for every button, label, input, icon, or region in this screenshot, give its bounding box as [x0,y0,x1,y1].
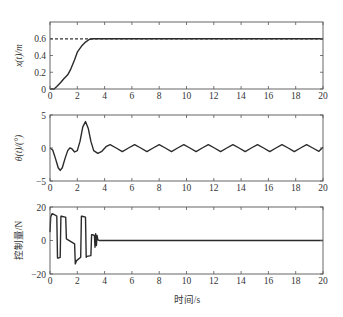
x-tick-label: 8 [157,183,162,193]
x-tick-label: 0 [48,276,53,286]
x-tick-label: 12 [209,183,219,193]
x-tick-label: 12 [209,276,219,286]
series-line [50,214,323,264]
x-tick-label: 0 [48,183,53,193]
x-tick-label: 2 [75,276,80,286]
series-line [50,39,323,89]
x-tick-label: 16 [264,91,274,101]
chart-canvas: 0246810121416182000.20.40.6x(t)/m 024681… [0,0,343,317]
y-tick-label: 0.6 [34,34,46,44]
x-tick-label: 16 [264,276,274,286]
x-tick-label: 2 [75,91,80,101]
x-tick-label: 8 [157,276,162,286]
x-tick-label: 18 [291,276,301,286]
x-tick-label: 14 [236,91,246,101]
y-tick-label: 0.2 [34,68,46,78]
x-tick-label: 20 [318,91,328,101]
x-tick-label: 18 [291,91,301,101]
x-tick-label: 14 [236,183,246,193]
y-axis-label: x(t)/m [14,44,25,68]
y-tick-label: 20 [37,203,47,213]
y-axis-label: θ(t)/(°) [14,135,25,161]
x-tick-label: 10 [182,276,192,286]
angle-plot: 02468101214161820−505θ(t)/(°) [14,111,328,194]
y-tick-label: −20 [31,270,46,280]
x-tick-label: 12 [209,91,219,101]
x-tick-label: 10 [182,183,192,193]
x-axis-label: 时间/s [174,294,201,305]
plot-frame [50,115,323,181]
x-tick-label: 18 [291,183,301,193]
x-tick-label: 6 [130,183,135,193]
x-tick-label: 14 [236,276,246,286]
x-tick-label: 10 [182,91,192,101]
plot-frame [50,22,323,89]
x-tick-label: 6 [130,276,135,286]
x-tick-label: 4 [102,183,107,193]
y-axis-label: 控制量/N [13,221,24,261]
y-tick-label: −5 [36,177,46,187]
y-tick-label: 0 [41,236,46,246]
x-tick-label: 4 [102,276,107,286]
control-plot: 02468101214161820−20020控制量/N [13,203,328,287]
position-plot: 0246810121416182000.20.40.6x(t)/m [14,22,328,101]
x-tick-label: 16 [264,183,274,193]
x-tick-label: 6 [130,91,135,101]
x-tick-label: 8 [157,91,162,101]
x-tick-label: 0 [48,91,53,101]
y-tick-label: 5 [41,111,46,121]
series-line [50,122,323,171]
y-tick-label: 0 [41,85,46,95]
x-tick-label: 4 [102,91,107,101]
x-tick-label: 20 [318,183,328,193]
x-tick-label: 20 [318,276,328,286]
y-tick-label: 0 [41,144,46,154]
y-tick-label: 0.4 [34,51,46,61]
x-tick-label: 2 [75,183,80,193]
